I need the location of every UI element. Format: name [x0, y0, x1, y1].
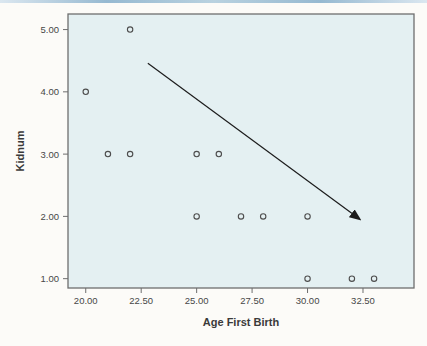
- plot-area: [68, 14, 414, 288]
- y-tick-label: 5.00: [41, 24, 60, 35]
- y-axis-label: Kidnum: [14, 130, 26, 171]
- x-tick-label: 30.00: [296, 295, 320, 306]
- x-tick-label: 32.50: [351, 295, 375, 306]
- x-tick-label: 20.00: [74, 295, 98, 306]
- scatter-plot-svg: 20.0022.5025.0027.5030.0032.50 1.002.003…: [0, 0, 427, 346]
- y-tick-label: 3.00: [41, 149, 60, 160]
- x-axis-ticks: 20.0022.5025.0027.5030.0032.50: [74, 288, 375, 306]
- y-tick-label: 4.00: [41, 86, 60, 97]
- y-tick-label: 1.00: [41, 273, 60, 284]
- y-axis-ticks: 1.002.003.004.005.00: [41, 24, 69, 284]
- x-axis-label: Age First Birth: [203, 316, 280, 328]
- scatter-chart: 20.0022.5025.0027.5030.0032.50 1.002.003…: [0, 0, 427, 346]
- x-tick-label: 25.00: [185, 295, 209, 306]
- y-tick-label: 2.00: [41, 211, 60, 222]
- x-tick-label: 22.50: [129, 295, 153, 306]
- x-tick-label: 27.50: [240, 295, 264, 306]
